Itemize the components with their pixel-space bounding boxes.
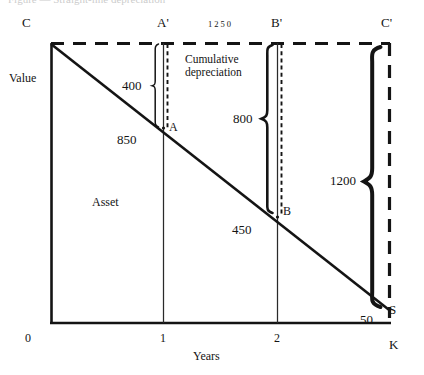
label-cumulative-depreciation-year-2: 800 <box>233 112 253 125</box>
cumulative-depreciation-line-1: Cumulative <box>185 53 242 66</box>
label-x-tick-1: 1 <box>160 332 166 344</box>
label-salvage-value: 50 <box>360 313 373 326</box>
label-y-axis-value: Value <box>9 72 36 84</box>
label-corner-c: C <box>22 16 31 29</box>
label-x-axis-years: Years <box>193 350 220 362</box>
label-salvage-point-s: S <box>389 303 396 316</box>
brace-400 <box>152 44 158 127</box>
label-corner-b-prime: B' <box>271 16 282 29</box>
point-b-marker <box>276 215 279 218</box>
label-corner-a-prime: A' <box>157 16 169 29</box>
label-total-cost: 1250 <box>208 20 233 29</box>
point-a-marker <box>162 126 165 129</box>
brace-1200 <box>364 47 381 307</box>
label-corner-k: K <box>389 338 398 351</box>
point-markers <box>162 126 279 218</box>
label-point-b: B <box>283 205 291 217</box>
brace-800 <box>262 45 273 213</box>
cumulative-depreciation-line-2: depreciation <box>185 66 242 79</box>
label-region-cumulative-depreciation: Cumulative depreciation <box>185 53 242 79</box>
label-depreciation-year-1: 400 <box>122 79 142 92</box>
label-book-value-year-2: 450 <box>232 223 252 236</box>
label-point-a: A <box>169 121 178 133</box>
label-book-value-year-1: 850 <box>117 133 137 146</box>
label-corner-c-prime: C' <box>381 16 392 29</box>
label-x-tick-2: 2 <box>274 332 280 344</box>
label-cumulative-depreciation-final: 1200 <box>330 174 356 187</box>
label-x-tick-0: 0 <box>25 332 31 344</box>
label-region-asset: Asset <box>92 196 119 208</box>
